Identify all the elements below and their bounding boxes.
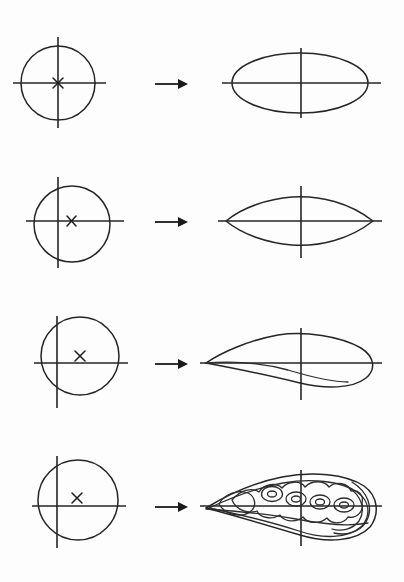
spot-outer-2 [286, 492, 306, 506]
row-4-group [32, 456, 382, 548]
row-3-group [34, 316, 382, 408]
figure-canvas [0, 0, 404, 582]
row-2-group [26, 177, 382, 268]
row-3-source-circle-diagram [34, 316, 128, 408]
arrow-right-icon-head [178, 217, 188, 227]
spot-inner-2 [292, 496, 301, 502]
spot-inner-4 [340, 502, 349, 508]
spot-outer-4 [334, 498, 354, 512]
inner-spots [262, 487, 355, 513]
row-3-result-airfoil-diagram [200, 328, 382, 400]
arrow-right-icon-head [178, 359, 188, 369]
row-1-result-ellipse-diagram [222, 48, 381, 118]
row-1-source-circle-diagram [13, 37, 106, 128]
row-1-arrow [155, 79, 188, 89]
row-4-arrow [155, 502, 188, 512]
x-marker [72, 493, 82, 503]
row-4-source-circle-diagram [32, 456, 126, 548]
spot-inner-3 [316, 499, 325, 505]
spot-outer-1 [262, 487, 283, 502]
result-cambered-airfoil [206, 334, 373, 387]
arrow-right-icon-head [178, 79, 188, 89]
row-3-arrow [155, 359, 188, 369]
rear-arc-2 [332, 487, 362, 530]
row-1-group [13, 37, 381, 128]
joukowski-transformation-figure [0, 0, 404, 582]
arrow-right-icon-head [178, 502, 188, 512]
camber-inner-line [206, 362, 348, 382]
row-4-result-airfoil-diagram [200, 470, 382, 546]
result-larva-airfoil-outline [206, 474, 376, 540]
row-2-result-airfoil-diagram [218, 186, 382, 258]
x-marker [75, 351, 85, 361]
spot-inner-1 [268, 491, 277, 497]
source-circle [34, 186, 110, 262]
spot-outer-3 [310, 495, 330, 509]
row-2-source-circle-diagram [26, 177, 124, 268]
row-2-arrow [155, 217, 188, 227]
